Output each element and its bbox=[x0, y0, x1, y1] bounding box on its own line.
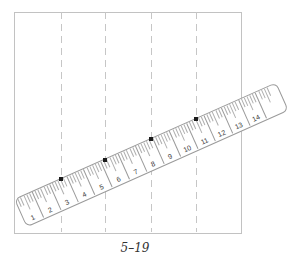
division-point-marker bbox=[149, 137, 153, 141]
figure-canvas: 1234567891011121314 5–19 bbox=[0, 0, 294, 260]
figure-caption: 5–19 bbox=[95, 241, 175, 255]
ruler-number: 14 bbox=[246, 111, 266, 126]
division-point-marker bbox=[194, 117, 198, 121]
division-point-marker bbox=[59, 177, 63, 181]
vertical-dashed-guide bbox=[151, 12, 152, 232]
division-point-marker bbox=[103, 158, 107, 162]
vertical-dashed-guide bbox=[105, 12, 106, 232]
